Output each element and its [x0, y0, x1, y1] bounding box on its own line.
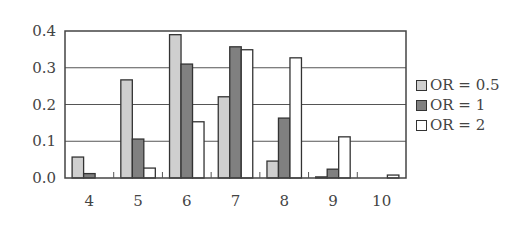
legend-item: OR = 1 — [416, 95, 500, 115]
legend-label: OR = 0.5 — [430, 76, 500, 94]
bar — [72, 157, 84, 178]
y-tick-label: 0.3 — [32, 59, 56, 77]
x-tick-label: 5 — [133, 192, 143, 210]
y-tick-label: 0.1 — [32, 132, 56, 150]
x-tick-label: 10 — [372, 192, 391, 210]
y-tick-label: 0.0 — [32, 169, 56, 187]
legend-swatch-icon — [416, 80, 427, 91]
bar — [144, 168, 156, 178]
legend: OR = 0.5OR = 1OR = 2 — [416, 75, 500, 135]
legend-label: OR = 2 — [430, 116, 485, 134]
bar — [278, 118, 290, 178]
bar — [181, 64, 193, 178]
x-tick-label: 6 — [182, 192, 192, 210]
x-tick-label: 9 — [328, 192, 338, 210]
bar — [170, 35, 182, 178]
legend-label: OR = 1 — [430, 96, 485, 114]
bars — [72, 35, 399, 178]
x-tick-label: 8 — [279, 192, 289, 210]
y-axis-ticks: 0.00.10.20.30.4 — [32, 22, 56, 187]
x-tick-label: 7 — [231, 192, 241, 210]
legend-item: OR = 2 — [416, 115, 500, 135]
x-tick-label: 4 — [85, 192, 95, 210]
bar — [230, 47, 242, 178]
bar — [218, 97, 230, 178]
y-tick-label: 0.4 — [32, 22, 56, 40]
bar — [241, 50, 253, 178]
bar — [121, 80, 133, 178]
legend-swatch-icon — [416, 120, 427, 131]
bar — [267, 161, 279, 178]
bar — [327, 169, 339, 178]
bar — [339, 137, 351, 178]
bar — [193, 122, 205, 178]
bar — [290, 58, 302, 178]
legend-swatch-icon — [416, 100, 427, 111]
bar — [132, 139, 144, 178]
legend-item: OR = 0.5 — [416, 75, 500, 95]
y-tick-label: 0.2 — [32, 96, 56, 114]
